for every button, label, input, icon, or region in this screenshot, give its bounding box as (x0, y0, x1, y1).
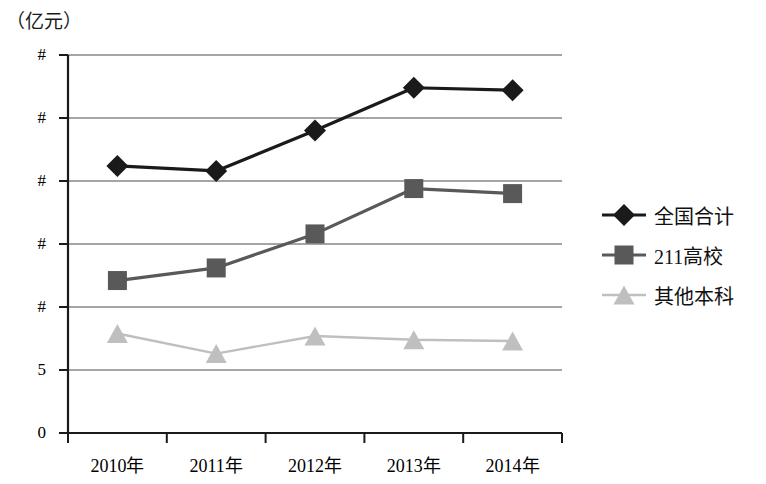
legend-label: 其他本科 (654, 281, 734, 310)
legend: 全国合计211高校其他本科 (600, 195, 766, 315)
legend-item[interactable]: 211高校 (600, 235, 766, 275)
y-axis-tick-label: # (16, 298, 46, 315)
y-axis-tick-label: # (16, 235, 46, 252)
x-axis-tick-label: 2012年 (266, 457, 365, 475)
legend-item[interactable]: 全国合计 (600, 195, 766, 235)
line-chart: （亿元） #####50 2010年2011年2012年2013年2014年 全… (0, 0, 766, 484)
y-axis-tick-label: 5 (16, 361, 46, 378)
x-axis-tick-label: 2014年 (463, 457, 562, 475)
legend-marker-diamond-icon (600, 203, 648, 227)
gridlines (68, 55, 562, 433)
legend-label: 全国合计 (654, 201, 734, 230)
legend-label: 211高校 (654, 241, 723, 270)
x-axis-tick-label: 2013年 (364, 457, 463, 475)
legend-marker-square-icon (600, 243, 648, 267)
legend-marker-triangle-icon (600, 283, 648, 307)
axis-ticks (59, 55, 562, 443)
y-axis-tick-label: # (16, 46, 46, 63)
legend-item[interactable]: 其他本科 (600, 275, 766, 315)
y-axis-tick-label: # (16, 172, 46, 189)
x-axis-tick-label: 2011年 (167, 457, 266, 475)
y-axis-tick-label: # (16, 109, 46, 126)
y-axis-tick-label: 0 (16, 424, 46, 441)
series-markers (106, 77, 523, 363)
x-axis-tick-label: 2010年 (68, 457, 167, 475)
